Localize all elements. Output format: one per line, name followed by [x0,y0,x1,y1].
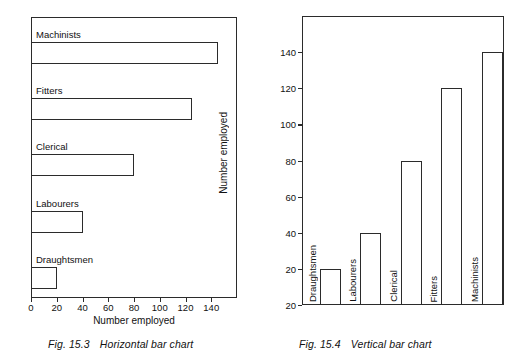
y-axis-tick-label: 120 [262,83,296,94]
x-axis-tick-label: 40 [77,302,88,313]
horizontal-bar [31,154,134,176]
x-axis-tick-label: 0 [28,302,33,313]
x-axis-tick-label: 140 [203,302,219,313]
horizontal-chart-x-axis-title: Number employed [31,315,237,326]
vertical-bar [441,88,462,305]
x-axis-tick-label: 20 [51,302,62,313]
horizontal-chart-plot-area: MachinistsFittersClericalLabourersDraugh… [31,17,237,298]
vertical-bar-label: Clerical [388,270,399,302]
y-axis-tick [298,197,302,198]
horizontal-chart-caption-text: Horizontal bar chart [100,338,194,350]
vertical-bar-label: Machinists [469,257,480,302]
horizontal-chart-x-tick-labels: 020406080100120140 [31,302,237,316]
horizontal-bar-label: Fitters [36,85,62,96]
y-axis-tick-label: 20 [262,300,296,311]
vertical-bar-chart-figure: DraughtsmenLabourersClericalFittersMachi… [262,0,525,363]
horizontal-bar-label: Clerical [36,141,68,152]
vertical-bar [482,52,503,305]
horizontal-bar [31,211,83,233]
vertical-bar [320,269,341,305]
y-axis-tick-label: 20 [262,263,296,274]
y-axis-tick-label: 40 [262,227,296,238]
horizontal-bar-label: Labourers [36,198,79,209]
vertical-bar-label: Fitters [428,276,439,302]
horizontal-bar [31,98,192,120]
horizontal-chart-caption-number: Fig. 15.3 [48,338,90,350]
y-axis-tick [298,88,302,89]
horizontal-bar-label: Machinists [36,29,81,40]
horizontal-bar [31,267,57,289]
y-axis-tick [298,52,302,53]
x-axis-tick-label: 120 [178,302,194,313]
y-axis-tick-label: 140 [262,47,296,58]
x-axis-tick-label: 60 [103,302,114,313]
vertical-bar-label: Labourers [347,259,358,302]
vertical-bar-label: Draughtsmen [307,245,318,302]
horizontal-bar [31,42,218,64]
y-axis-tick [298,305,302,306]
vertical-bar [360,233,381,305]
horizontal-bar-label: Draughtsmen [36,254,93,265]
vertical-bar [401,161,422,306]
figure-page: MachinistsFittersClericalLabourersDraugh… [0,0,525,363]
y-axis-tick [298,233,302,234]
vertical-chart-caption-number: Fig. 15.4 [299,338,341,350]
x-axis-tick-label: 80 [129,302,140,313]
y-axis-tick [298,269,302,270]
vertical-chart-y-axis-title: Number employed [218,112,338,194]
x-axis-tick-label: 100 [152,302,168,313]
vertical-chart-caption-text: Vertical bar chart [351,338,432,350]
horizontal-chart-caption: Fig. 15.3Horizontal bar chart [48,338,193,350]
vertical-chart-caption: Fig. 15.4Vertical bar chart [299,338,432,350]
